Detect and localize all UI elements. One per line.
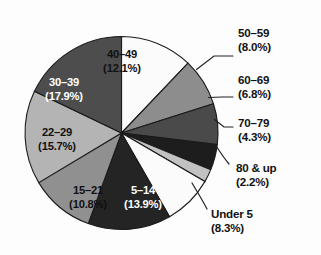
label-percent: (8.0%) [238,40,271,53]
label-name: 22–29 [42,126,72,138]
outer-slice-labels-group: 50–59(8.0%)60–69(6.8%)70–79(4.3%)80 & up… [211,26,277,234]
label-percent: (8.3%) [211,221,244,234]
label-percent: (12.1%) [103,62,141,74]
pie-chart-svg: 40–49(12.1%)30–39(17.9%)22–29(15.7%)15–2… [0,0,321,255]
label-percent: (4.3%) [238,130,271,143]
pie-chart-figure: 40–49(12.1%)30–39(17.9%)22–29(15.7%)15–2… [0,0,321,255]
label-name: 15–21 [73,184,103,196]
label-percent: (13.9%) [124,198,162,210]
label-name: 70–79 [238,116,270,129]
slice-label-40-49: 40–49(12.1%) [103,48,141,74]
callout-label-under-5: Under 5(8.3%) [211,207,254,234]
label-percent: (2.2%) [236,175,269,188]
label-percent: (6.8%) [238,87,271,100]
callout-label-50-59: 50–59(8.0%) [238,26,271,53]
leader-line-50-59 [197,56,234,70]
slice-label-15-21: 15–21(10.8%) [69,184,107,210]
label-name: 50–59 [238,26,270,39]
label-percent: (17.9%) [45,90,83,102]
label-name: Under 5 [211,207,254,220]
slice-label-22-29: 22–29(15.7%) [38,126,76,152]
label-name: 80 & up [236,161,277,174]
label-percent: (10.8%) [69,198,107,210]
label-name: 30–39 [49,76,79,88]
label-name: 40–49 [107,48,137,60]
callout-label-70-79: 70–79(4.3%) [238,116,271,143]
callout-label-80-up: 80 & up(2.2%) [236,161,277,188]
leader-line-80-up [216,145,230,164]
leader-line-60-69 [209,97,234,98]
callout-label-60-69: 60–69(6.8%) [238,73,271,100]
label-name: 60–69 [238,73,270,86]
slice-label-30-39: 30–39(17.9%) [45,76,83,102]
label-percent: (15.7%) [38,140,76,152]
label-name: 5–14 [131,184,156,196]
